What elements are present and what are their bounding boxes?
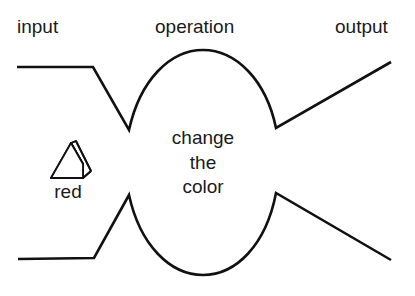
triangle-prism-icon (51, 141, 91, 178)
operation-header: operation (155, 17, 234, 36)
input-object-label: red (54, 182, 81, 201)
input-header: input (17, 17, 58, 36)
output-header: output (335, 17, 388, 36)
operation-text-line3: color (182, 177, 223, 196)
channel-outline (0, 0, 415, 296)
operation-text-line2: the (190, 153, 216, 172)
operation-text-line1: change (172, 128, 234, 147)
operation-diagram: input operation output change the color … (0, 0, 415, 296)
top-boundary-line (17, 50, 391, 130)
bottom-boundary-line (18, 193, 391, 275)
